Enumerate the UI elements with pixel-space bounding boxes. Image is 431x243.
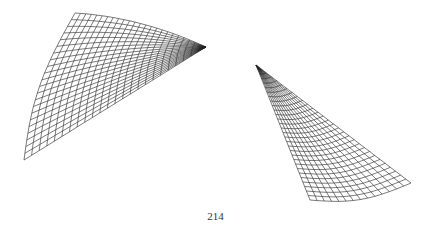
wireframe-surface-right — [256, 65, 411, 201]
wireframe-surface-left — [24, 13, 206, 160]
page-number: 214 — [0, 210, 431, 222]
figure-canvas — [0, 0, 431, 243]
